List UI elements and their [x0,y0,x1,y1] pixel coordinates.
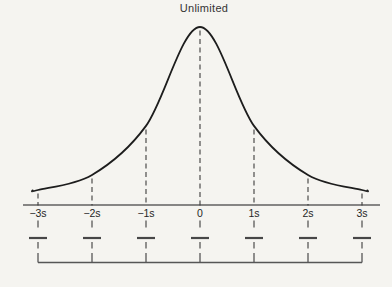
axis-tick-label: 0 [197,207,203,219]
sigma-column: 0 [191,31,209,263]
axis-tick-label: 1s [248,207,259,219]
bell-curve-figure: Unlimited −3s−2s−1s01s2s3s [0,0,392,287]
figure-canvas: Unlimited −3s−2s−1s01s2s3s [0,0,392,287]
figure-title: Unlimited [180,2,229,14]
sigma-column: 2s [299,179,317,263]
sigma-column: 3s [353,194,371,263]
sigma-column: −2s [83,179,101,263]
axis-tick-label: −1s [137,207,154,219]
sigma-column: 1s [245,129,263,262]
axis-tick-label: 2s [302,207,313,219]
axis-tick-label: −3s [29,207,46,219]
axis-tick-label: −2s [83,207,100,219]
sigma-column: −1s [137,129,155,262]
sigma-column: −3s [29,194,47,263]
axis-tick-label: 3s [356,207,367,219]
